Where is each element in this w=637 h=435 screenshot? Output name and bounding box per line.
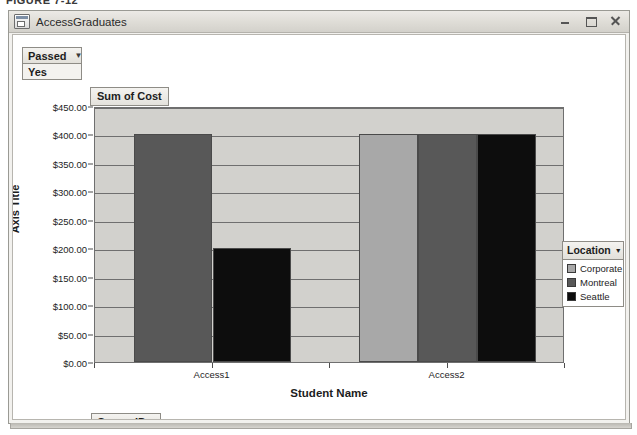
maximize-button[interactable] [583, 13, 598, 28]
y-axis-tick-mark [88, 334, 93, 335]
y-axis-tick-label: $450.00 [29, 102, 87, 113]
pivot-chart: Sum of Cost $0.00$50.00$100.00$150.00$20… [13, 35, 625, 419]
window-titlebar[interactable]: AccessGraduates [9, 11, 629, 33]
y-axis-tick-label: $150.00 [29, 272, 87, 283]
y-axis-tick-mark [88, 220, 93, 221]
filter-field-courseid[interactable]: CourseID ▼ [91, 413, 161, 420]
y-axis-title[interactable]: Axis Title [12, 185, 21, 234]
legend-item-seattle[interactable]: Seattle [567, 291, 619, 302]
x-axis-title[interactable]: Student Name [94, 387, 564, 399]
x-axis-tick-mark [212, 363, 213, 368]
legend-item-montreal[interactable]: Montreal [567, 277, 619, 288]
y-axis-tick-mark [88, 363, 93, 364]
application-window: AccessGraduates Passed ▼ Yes Sum of Cost… [8, 10, 630, 424]
window-controls [558, 13, 623, 28]
bar-seattle-access1[interactable] [213, 248, 291, 362]
y-axis-tick-label: $50.00 [29, 329, 87, 340]
legend-item-label: Montreal [580, 277, 617, 288]
bars-layer [95, 108, 563, 362]
x-axis-boundary-tick [329, 363, 330, 368]
legend-items: CorporateMontrealSeattle [563, 260, 623, 306]
y-axis-tick-mark [88, 192, 93, 193]
chart-series-title[interactable]: Sum of Cost [90, 87, 169, 106]
x-axis-tick-label: Access1 [194, 369, 230, 380]
chart-legend: Location ▼ CorporateMontrealSeattle [562, 241, 624, 307]
y-axis-tick-mark [88, 135, 93, 136]
bar-corporate-access2[interactable] [359, 134, 418, 362]
y-axis-tick-label: $250.00 [29, 215, 87, 226]
y-axis-tick-label: $300.00 [29, 187, 87, 198]
y-axis-tick-mark [88, 306, 93, 307]
form-window-icon [14, 14, 30, 29]
x-axis-tick-mark [447, 363, 448, 368]
legend-swatch-icon [567, 292, 576, 301]
y-axis-tick-mark [88, 107, 93, 108]
minimize-button[interactable] [558, 13, 573, 28]
y-axis-tick-mark [88, 249, 93, 250]
y-axis-tick-label: $350.00 [29, 158, 87, 169]
window-title: AccessGraduates [36, 16, 127, 28]
legend-item-label: Seattle [580, 291, 610, 302]
legend-title-bar[interactable]: Location ▼ [563, 242, 623, 260]
x-axis-tick-label: Access2 [429, 369, 465, 380]
chevron-down-icon: ▼ [154, 418, 162, 421]
close-button[interactable] [608, 13, 623, 28]
legend-title-label: Location [567, 244, 611, 256]
page-caption: FIGURE 7-12 [6, 0, 78, 4]
bar-montreal-access2[interactable] [418, 134, 477, 362]
bar-seattle-access2[interactable] [477, 134, 536, 362]
x-axis-boundary-tick [564, 363, 565, 368]
bar-montreal-access1[interactable] [134, 134, 212, 362]
legend-item-corporate[interactable]: Corporate [567, 263, 619, 274]
y-axis-tick-labels: $0.00$50.00$100.00$150.00$200.00$250.00$… [25, 35, 87, 419]
y-axis-tick-label: $100.00 [29, 301, 87, 312]
pivot-chart-client-area: Passed ▼ Yes Sum of Cost $0.00$50.00$100… [12, 34, 626, 420]
y-axis-tick-label: $400.00 [29, 130, 87, 141]
legend-swatch-icon [567, 278, 576, 287]
legend-swatch-icon [567, 264, 576, 273]
x-axis-boundary-tick [94, 363, 95, 368]
y-axis-tick-label: $200.00 [29, 244, 87, 255]
y-axis-tick-mark [88, 163, 93, 164]
plot-area [94, 107, 564, 363]
chevron-down-icon: ▼ [615, 247, 622, 254]
window-drop-shadow [10, 423, 632, 429]
y-axis-tick-label: $0.00 [29, 358, 87, 369]
filter-field-courseid-label: CourseID [97, 416, 146, 421]
y-axis-tick-mark [88, 277, 93, 278]
legend-item-label: Corporate [580, 263, 622, 274]
